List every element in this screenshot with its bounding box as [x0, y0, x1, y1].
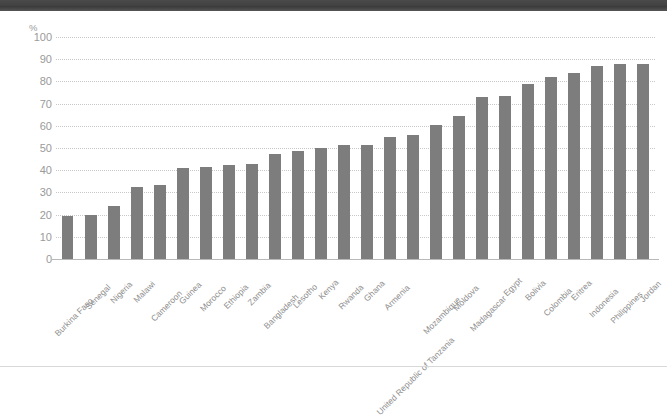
- y-axis-tick-label: 30: [12, 187, 52, 198]
- x-axis-tick-label: Madagascar: [469, 294, 508, 333]
- y-axis-tick-label: 60: [12, 120, 52, 131]
- gridline: [56, 215, 655, 216]
- bar[interactable]: [85, 215, 97, 259]
- bar[interactable]: [361, 145, 373, 259]
- y-axis-tick-label: 70: [12, 98, 52, 109]
- bar[interactable]: [315, 148, 327, 259]
- bar[interactable]: [384, 137, 396, 259]
- bar[interactable]: [200, 167, 212, 259]
- x-axis-tick-label: Ghana: [362, 279, 386, 303]
- x-axis-tick-labels: Burkina FasoSenegalNigeriaMalawiCameroon…: [56, 261, 655, 371]
- x-axis-tick-label: Egypt: [502, 276, 523, 297]
- x-axis-tick-label: Nigeria: [108, 280, 133, 305]
- x-axis-tick-label: Morocco: [198, 284, 227, 313]
- y-axis-tick-label: 20: [12, 209, 52, 220]
- x-axis-tick-label: Ethiopia: [222, 283, 250, 311]
- bar[interactable]: [568, 73, 580, 259]
- y-axis-tick-label: 10: [12, 231, 52, 242]
- bar[interactable]: [338, 145, 350, 259]
- bar[interactable]: [499, 96, 511, 259]
- bar[interactable]: [177, 168, 189, 259]
- x-axis-tick-label: Cameroon: [149, 289, 183, 323]
- x-axis-tick-label: Bolivia: [524, 279, 548, 303]
- bar[interactable]: [407, 135, 419, 259]
- y-axis-tick-label: 90: [12, 54, 52, 65]
- bottom-divider: [0, 366, 667, 367]
- x-axis-tick-label: Malawi: [132, 280, 157, 305]
- x-axis-tick-label: United Republic of Tanzania: [375, 336, 456, 417]
- bar[interactable]: [154, 185, 166, 259]
- x-axis-tick-label: Jordan: [639, 279, 663, 303]
- bar[interactable]: [108, 206, 120, 259]
- y-axis-tick-label: 100: [12, 32, 52, 43]
- y-axis-tick-label: 40: [12, 165, 52, 176]
- gridline: [56, 237, 655, 238]
- x-axis-tick-label: Guinea: [177, 280, 202, 305]
- bar[interactable]: [545, 77, 557, 259]
- bar[interactable]: [614, 64, 626, 259]
- y-axis-tick-label: 0: [12, 254, 52, 265]
- x-axis-tick-label: Eritrea: [570, 279, 594, 303]
- bar-chart: % 1009080706050403020100 Burkina FasoSen…: [0, 11, 667, 378]
- gridline: [56, 148, 655, 149]
- x-axis-tick-label: Armenia: [383, 283, 411, 311]
- x-axis-tick-label: Colombia: [542, 286, 573, 317]
- x-axis-tick-label: Kenya: [317, 278, 340, 301]
- gridline: [56, 126, 655, 127]
- gridline: [56, 81, 655, 82]
- bar[interactable]: [131, 187, 143, 259]
- bar[interactable]: [453, 116, 465, 259]
- plot-area: [56, 37, 655, 259]
- y-axis-tick-label: 50: [12, 143, 52, 154]
- bar[interactable]: [637, 64, 649, 259]
- bar[interactable]: [591, 66, 603, 259]
- bar[interactable]: [476, 97, 488, 259]
- bar[interactable]: [292, 151, 304, 259]
- bar[interactable]: [62, 216, 74, 259]
- window-titlebar: [0, 0, 667, 11]
- bar[interactable]: [223, 165, 235, 259]
- bar[interactable]: [246, 164, 258, 259]
- gridline: [56, 170, 655, 171]
- gridline: [56, 192, 655, 193]
- x-axis-line: [52, 259, 659, 260]
- gridline: [56, 37, 655, 38]
- bar[interactable]: [522, 84, 534, 259]
- gridline: [56, 59, 655, 60]
- bar[interactable]: [269, 154, 281, 259]
- y-axis-tick-labels: 1009080706050403020100: [8, 37, 52, 259]
- x-axis-tick-label: Rwanda: [337, 283, 365, 311]
- x-axis-tick-label: Zambia: [246, 281, 272, 307]
- gridline: [56, 104, 655, 105]
- bar[interactable]: [430, 125, 442, 259]
- y-axis-tick-label: 80: [12, 76, 52, 87]
